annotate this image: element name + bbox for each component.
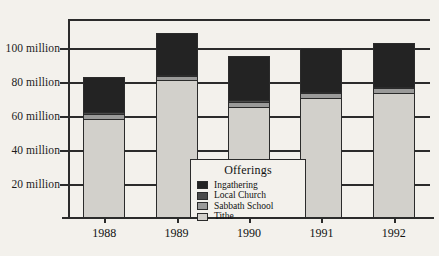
legend-swatch-icon	[197, 192, 208, 200]
y-axis-tick-label: 80 million	[11, 76, 60, 88]
y-axis-tick	[60, 116, 68, 118]
y-axis-tick	[60, 82, 68, 84]
y-axis-tick-label: 40 million	[11, 144, 60, 156]
legend-title: Offerings	[191, 163, 305, 178]
y-axis-tick	[60, 150, 68, 152]
legend-label: Sabbath School	[214, 202, 273, 211]
y-axis-tick-label: 100 million	[6, 42, 60, 54]
legend-items: IngatheringLocal ChurchSabbath SchoolTit…	[191, 180, 305, 222]
x-axis-tick	[177, 218, 179, 223]
y-axis-tick	[60, 48, 68, 50]
legend-label: Local Church	[214, 191, 266, 200]
y-axis-labels: 100 million80 million60 million40 millio…	[0, 19, 60, 218]
x-axis-tick-label: 1992	[382, 226, 406, 241]
legend-swatch-icon	[197, 181, 208, 189]
bar-1988	[83, 77, 125, 218]
segment-tithe	[301, 99, 341, 217]
x-axis-tick	[104, 218, 106, 223]
legend-label: Ingathering	[214, 181, 258, 190]
legend-swatch-icon	[197, 202, 208, 210]
x-axis-tick-label: 1990	[237, 226, 261, 241]
segment-tithe	[84, 120, 124, 217]
y-axis-tick-label: 20 million	[11, 178, 60, 190]
y-axis-tick	[60, 184, 68, 186]
x-axis-tick-label: 1988	[92, 226, 116, 241]
y-axis-tick-label: 60 million	[11, 110, 60, 122]
legend-label: Tithe	[214, 212, 234, 221]
segment-ingathering	[301, 49, 341, 93]
x-axis-tick	[321, 218, 323, 223]
segment-ingathering	[157, 34, 197, 76]
bar-1991	[300, 48, 342, 218]
legend: Offerings IngatheringLocal ChurchSabbath…	[190, 159, 306, 218]
x-axis-tick-label: 1991	[309, 226, 333, 241]
segment-ingathering	[229, 57, 269, 101]
segment-ingathering	[374, 44, 414, 88]
segment-tithe	[374, 94, 414, 217]
legend-item: Ingathering	[197, 180, 305, 190]
x-axis-tick-label: 1989	[165, 226, 189, 241]
segment-ingathering	[84, 78, 124, 113]
legend-item: Local Church	[197, 191, 305, 201]
legend-swatch-icon	[197, 213, 208, 221]
stacked-bar-chart: 100 million80 million60 million40 millio…	[0, 0, 439, 256]
legend-item: Tithe	[197, 212, 305, 222]
x-axis-tick	[394, 218, 396, 223]
bar-1992	[373, 43, 415, 218]
legend-item: Sabbath School	[197, 201, 305, 211]
